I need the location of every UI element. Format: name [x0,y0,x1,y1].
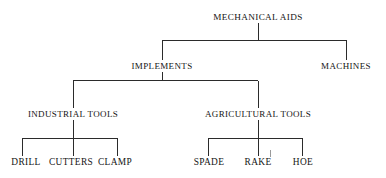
node-rake: RAKE [245,158,272,167]
node-hoe: HOE [293,158,313,167]
node-drill: DRILL [11,158,40,167]
node-cutters: CUTTERS [49,158,93,167]
node-industrial-tools: INDUSTRIAL TOOLS [28,110,118,119]
node-spade: SPADE [194,158,225,167]
tree-connector-lines [0,0,386,178]
node-agricultural-tools: AGRICULTURAL TOOLS [205,110,311,119]
node-machines: MACHINES [321,62,371,71]
node-implements: IMPLEMENTS [131,62,192,71]
node-clamp: CLAMP [98,158,132,167]
node-mechanical-aids: MECHANICAL AIDS [213,13,302,22]
hierarchy-diagram: MECHANICAL AIDS IMPLEMENTS MACHINES INDU… [0,0,386,178]
